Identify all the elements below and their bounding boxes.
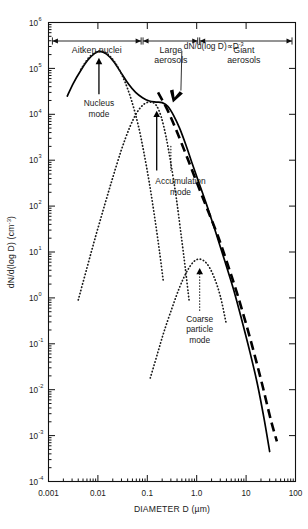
y-tick-label: 103 xyxy=(29,153,42,165)
y-axis-title: dN/d(log D) (cm-3) xyxy=(6,216,16,288)
x-tick-label: 0.1 xyxy=(142,489,154,498)
nucleus-mode-label: Nucleus xyxy=(84,98,114,108)
x-axis-title: DIAMETER D (µm) xyxy=(134,504,210,514)
y-tick-label: 104 xyxy=(29,108,42,120)
series-curve-3 xyxy=(78,102,189,300)
category-range-arrow xyxy=(143,38,149,43)
y-tick-exponent: 3 xyxy=(39,153,42,159)
y-tick-exponent: 1 xyxy=(39,245,42,251)
nucleus-mode-label: mode xyxy=(88,109,109,119)
category-label-2: aerosols xyxy=(227,55,261,65)
x-tick-label: 100 xyxy=(289,489,303,498)
x-tick-label: 10 xyxy=(242,489,252,498)
y-tick-mantissa: 10 xyxy=(29,156,39,165)
y-tick-exponent: -4 xyxy=(39,475,44,481)
y-tick-label: 101 xyxy=(29,245,42,257)
y-tick-label: 10-4 xyxy=(29,475,44,487)
nucleus-mode-arrow-head xyxy=(96,58,103,64)
y-tick-mantissa: 10 xyxy=(29,19,39,28)
y-tick-exponent: 5 xyxy=(39,62,42,68)
y-tick-mantissa: 10 xyxy=(29,432,39,441)
y-tick-exponent: 0 xyxy=(39,291,42,297)
y-tick-label: 10-1 xyxy=(29,337,44,349)
y-tick-mantissa: 10 xyxy=(29,386,39,395)
y-tick-label: 102 xyxy=(29,199,42,211)
y-tick-mantissa: 10 xyxy=(29,294,39,303)
y-tick-exponent: -1 xyxy=(39,337,44,343)
accumulation-mode-label: mode xyxy=(170,187,191,197)
y-tick-mantissa: 10 xyxy=(29,65,39,74)
x-tick-label: 1.0 xyxy=(191,489,203,498)
x-tick-label: 0.01 xyxy=(90,489,106,498)
accumulation-mode-label: Accumulation xyxy=(155,176,206,186)
y-tick-label: 100 xyxy=(29,291,42,303)
y-tick-mantissa: 10 xyxy=(29,202,39,211)
category-range-arrow xyxy=(52,38,58,43)
category-range-arrow xyxy=(136,38,142,43)
coarse-mode-label: particle xyxy=(186,324,213,334)
category-label-1: Large xyxy=(160,45,183,55)
category-label-1: aerosols xyxy=(154,55,188,65)
y-tick-exponent: 2 xyxy=(39,199,42,205)
power-law-annotation: dN/d(log D)∝D-3 xyxy=(184,41,244,51)
y-tick-label: 10-3 xyxy=(29,429,44,441)
coarse-mode-label: mode xyxy=(189,335,210,345)
x-tick-label: 0.001 xyxy=(38,489,59,498)
y-tick-label: 106 xyxy=(29,16,42,28)
y-tick-exponent: 6 xyxy=(39,16,42,22)
y-tick-mantissa: 10 xyxy=(29,340,39,349)
y-tick-label: 105 xyxy=(29,62,42,74)
category-range-arrow xyxy=(287,38,293,43)
y-tick-mantissa: 10 xyxy=(29,248,39,257)
y-tick-exponent: 4 xyxy=(39,108,42,114)
power-law-arrow-head xyxy=(170,90,183,103)
y-tick-exponent: -3 xyxy=(39,429,44,435)
y-tick-mantissa: 10 xyxy=(29,110,39,119)
y-tick-mantissa: 10 xyxy=(29,478,39,487)
chart-canvas: 10610510410310210110010-110-210-310-40.0… xyxy=(0,0,308,529)
y-tick-label: 10-2 xyxy=(29,383,44,395)
y-tick-exponent: -2 xyxy=(39,383,44,389)
aerosol-size-distribution-figure: 10610510410310210110010-110-210-310-40.0… xyxy=(0,0,308,529)
coarse-mode-label: Coarse xyxy=(186,314,213,324)
